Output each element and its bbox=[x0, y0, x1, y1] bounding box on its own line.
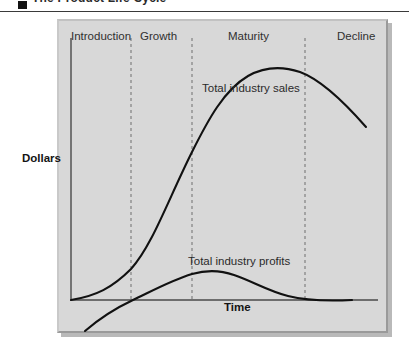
stage-label-growth: Growth bbox=[140, 30, 177, 42]
curve-label-total-industry-profits: Total industry profits bbox=[188, 255, 290, 267]
stage-label-introduction: Introduction bbox=[71, 30, 131, 42]
square-bullet-icon bbox=[18, 1, 27, 9]
figure-caption-text: The Product Life Cycle bbox=[32, 0, 166, 5]
product-life-cycle-figure bbox=[57, 19, 388, 333]
stage-label-decline: Decline bbox=[337, 30, 375, 42]
curve-label-total-industry-sales: Total industry sales bbox=[202, 82, 300, 94]
y-axis-title: Dollars bbox=[22, 152, 61, 164]
x-axis-title: Time bbox=[224, 301, 251, 313]
figure-caption-strip: The Product Life Cycle bbox=[0, 0, 409, 14]
stage-label-maturity: Maturity bbox=[228, 30, 269, 42]
caption-divider-rule bbox=[0, 11, 409, 12]
